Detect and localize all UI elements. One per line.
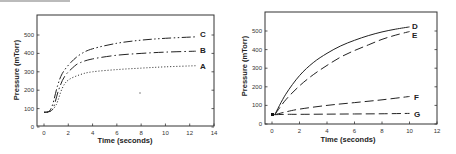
x-tick-label: 10 (162, 130, 169, 136)
x-tick-label: 8 (380, 128, 384, 134)
chart-right-svg: 024681012 0100200300400500 D E F G Time … (228, 0, 456, 154)
y-axis-title: Pressure (mTorr) (240, 35, 249, 96)
series-line-b (44, 51, 196, 112)
series-label-c: C (200, 30, 206, 39)
y-tick-label: 0 (259, 121, 263, 127)
x-axis-title: Time (seconds) (98, 136, 153, 145)
x-tick-label: 6 (353, 128, 357, 134)
series-line-e (275, 32, 410, 115)
chart-left-svg: 02468101214 0100200300400500 C B A Time … (0, 0, 228, 154)
x-axis-ticks: 024681012 (270, 122, 441, 135)
y-tick-label: 300 (252, 65, 263, 71)
y-tick-label: 300 (24, 69, 35, 75)
y-tick-label: 500 (252, 28, 263, 34)
x-tick-label: 12 (186, 130, 193, 136)
x-axis-ticks: 02468101214 (42, 124, 218, 137)
series-label-e: E (412, 31, 418, 40)
y-axis-ticks: 0100200300400500 (24, 32, 214, 130)
x-tick-label: 4 (91, 130, 95, 136)
chart-left: 02468101214 0100200300400500 C B A Time … (0, 0, 228, 154)
x-tick-label: 10 (406, 128, 413, 134)
plot-frame (37, 15, 214, 126)
series-label-g: G (414, 110, 420, 119)
y-tick-label: 200 (252, 84, 263, 90)
y-tick-label: 100 (24, 106, 35, 112)
series-line-d (275, 27, 410, 115)
x-tick-label: 2 (67, 130, 71, 136)
series-line-c (44, 37, 196, 112)
series-line-g (275, 113, 410, 114)
series-label-a: A (200, 62, 206, 71)
series-curves (44, 37, 196, 112)
y-tick-label: 100 (252, 102, 263, 108)
y-axis-title: Pressure (mTorr) (12, 39, 21, 100)
series-line-f (275, 96, 410, 114)
series-label-b: B (200, 46, 206, 55)
x-tick-label: 4 (325, 128, 329, 134)
series-curves (275, 27, 410, 115)
x-tick-label: 2 (298, 128, 302, 134)
y-tick-label: 400 (24, 50, 35, 56)
y-tick-label: 0 (31, 124, 35, 130)
y-tick-label: 500 (24, 32, 35, 38)
chart-right: 024681012 0100200300400500 D E F G Time … (228, 0, 456, 154)
x-tick-label: 12 (434, 128, 441, 134)
series-line-a (44, 66, 196, 113)
x-tick-label: 0 (42, 130, 46, 136)
stray-dot (139, 92, 141, 94)
series-label-d: D (412, 22, 418, 31)
series-label-f: F (414, 93, 419, 102)
start-marker (271, 113, 274, 116)
y-tick-label: 400 (252, 47, 263, 53)
x-tick-label: 0 (270, 128, 274, 134)
y-tick-label: 200 (24, 87, 35, 93)
x-tick-label: 14 (211, 130, 218, 136)
y-axis-ticks: 0100200300400500 (252, 28, 437, 127)
x-axis-title: Time (seconds) (321, 135, 376, 144)
